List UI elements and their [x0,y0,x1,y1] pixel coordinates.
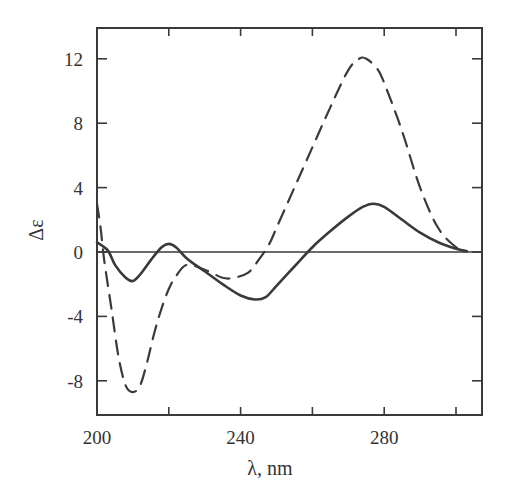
x-tick-label: 280 [370,427,399,448]
plot-frame [97,28,482,415]
x-tick-label: 200 [83,427,112,448]
x-axis-title: λ, nm [247,457,293,479]
axis-ticks [97,28,482,415]
y-tick-label: -4 [67,306,83,327]
series-dashed-line [97,57,467,392]
y-tick-label: -8 [67,371,83,392]
y-tick-label: 4 [74,178,84,199]
y-tick-label: 8 [74,113,84,134]
x-tick-label: 240 [226,427,255,448]
y-tick-label: 0 [74,242,84,263]
cd-spectrum-chart: 20024028012840-4-8 λ, nm Δε [0,0,509,499]
y-tick-label: 12 [64,49,83,70]
plot-border [97,28,482,415]
tick-labels: 20024028012840-4-8 [64,49,398,448]
y-axis-title: Δε [25,219,47,240]
